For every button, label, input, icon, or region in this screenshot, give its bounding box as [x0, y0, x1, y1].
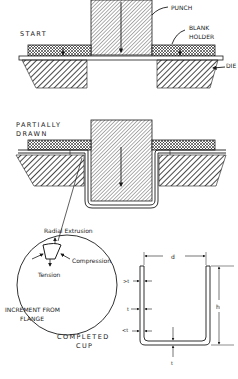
compression-arrow-right-icon	[61, 254, 70, 259]
completed-label-2: CUP	[76, 342, 93, 350]
mid-wall-label: t	[127, 306, 129, 312]
die-left-partial	[16, 155, 84, 186]
base-label: t	[171, 360, 173, 366]
die-right-partial	[159, 155, 226, 186]
cup-inner	[144, 266, 206, 341]
die-left	[22, 60, 87, 88]
h-label: h	[216, 303, 220, 310]
top-wall-label: >t	[123, 278, 129, 284]
start-stage: START PUNCH BLANK HOLDER DIE	[19, 0, 236, 88]
blank-holder-left-partial	[28, 140, 91, 150]
bottom-wall-label: <t	[122, 327, 128, 333]
increment-title-1: INCREMENT FROM	[5, 306, 60, 313]
blank-holder-label-2: HOLDER	[189, 33, 214, 40]
cup-outer	[140, 266, 210, 345]
punch-label: PUNCH	[171, 4, 192, 11]
partial-label-2: DRAWN	[16, 130, 48, 138]
die-label: DIE	[226, 62, 236, 69]
compression-label: Compression	[72, 257, 111, 265]
die-right	[157, 60, 218, 88]
tension-label: Tension	[37, 271, 61, 278]
punch-partial	[91, 120, 152, 201]
start-label: START	[20, 30, 47, 38]
blank-holder-left	[28, 45, 91, 56]
deep-drawing-diagram: START PUNCH BLANK HOLDER DIE PARTIALLY D…	[0, 0, 238, 379]
completed-stage: COMPLETED CUP d h >t t <t t	[57, 252, 234, 366]
blank-holder-right	[152, 45, 215, 56]
blank-holder-right-partial	[152, 140, 215, 150]
blank-sheet	[19, 56, 223, 60]
partial-stage: PARTIALLY DRAWN	[16, 120, 226, 241]
compression-arrow-left-icon	[32, 254, 43, 259]
blank-holder-leader	[172, 30, 185, 44]
blank-holder-label-1: BLANK	[189, 24, 210, 31]
punch-leader	[152, 7, 168, 15]
d-label: d	[171, 253, 175, 260]
partial-label-1: PARTIALLY	[16, 121, 61, 129]
increment-element	[43, 244, 61, 260]
completed-label-1: COMPLETED	[57, 333, 110, 341]
increment-detail: Radial Extrusion Tension Compression INC…	[5, 227, 117, 335]
punch	[91, 0, 152, 55]
increment-title-2: FLANGE	[20, 315, 44, 322]
radial-extrusion-label: Radial Extrusion	[44, 227, 93, 234]
